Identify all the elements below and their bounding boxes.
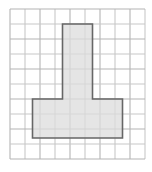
figure-container	[0, 0, 152, 172]
t-shape-polygon	[33, 24, 123, 138]
grid-and-shape-svg	[0, 0, 152, 172]
